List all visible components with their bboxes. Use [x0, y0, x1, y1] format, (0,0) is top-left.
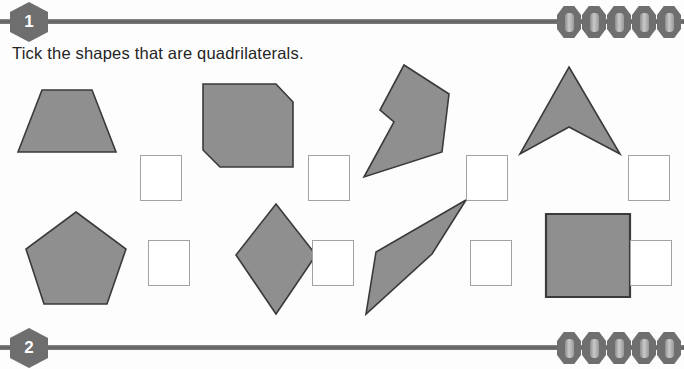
shape-cell [512, 62, 638, 182]
tick-box[interactable] [470, 240, 512, 286]
header-rule-bar: 1 [0, 2, 684, 42]
instruction-text: Tick the shapes that are quadrilaterals. [12, 44, 304, 63]
shape-cell [8, 62, 134, 182]
bead-icon [607, 6, 631, 38]
footer-bead-decoration [557, 329, 681, 367]
shape-polygon [203, 84, 293, 167]
bead-icon [557, 332, 581, 364]
header-bead-decoration [557, 3, 681, 41]
header-question-badge: 1 [10, 2, 48, 42]
worksheet-page: 1 Tick the shapes that are quadrilateral… [0, 0, 684, 369]
bead-icon [657, 6, 681, 38]
shape-cell [18, 192, 144, 312]
bead-icon [607, 332, 631, 364]
shape-cell [352, 62, 478, 182]
footer-question-number: 2 [24, 339, 33, 357]
shape-cell [198, 62, 324, 182]
header-question-number: 1 [24, 13, 33, 31]
shape-polygon [26, 212, 126, 304]
shape-polygon [366, 200, 466, 314]
shape-concave-chevron-arrow [352, 62, 472, 182]
shape-row-2 [0, 192, 684, 312]
tick-box[interactable] [312, 240, 354, 286]
bead-icon [657, 332, 681, 364]
shape-polygon [364, 65, 449, 177]
footer-question-badge: 2 [10, 328, 48, 368]
shape-regular-pentagon [18, 192, 138, 312]
tick-box[interactable] [630, 240, 672, 286]
bead-icon [632, 332, 656, 364]
shape-arrowhead-dart [512, 62, 632, 182]
shape-polygon [520, 67, 620, 154]
shape-trapezium [8, 62, 128, 182]
bead-icon [557, 6, 581, 38]
shape-polygon [546, 214, 630, 297]
tick-box[interactable] [148, 240, 190, 286]
shape-cell [358, 192, 484, 312]
shape-polygon [18, 90, 116, 152]
shape-oblique-slanted-quadrilateral [358, 192, 478, 312]
bead-icon [582, 332, 606, 364]
footer-rule-bar: 2 [0, 328, 684, 368]
shape-polygon [236, 204, 316, 314]
bead-icon [632, 6, 656, 38]
shape-cut-corner-hexagon [198, 62, 318, 182]
bead-icon [582, 6, 606, 38]
shape-row-1 [0, 62, 684, 182]
